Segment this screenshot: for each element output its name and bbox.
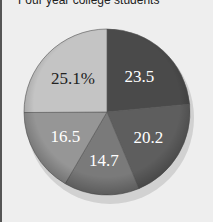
slice-label: 16.5 <box>50 127 80 146</box>
slice-label: 20.2 <box>133 128 163 147</box>
slice-label: 14.7 <box>89 151 119 170</box>
pie-chart: 23.520.214.716.525.1% <box>0 0 213 222</box>
slice-label: 25.1% <box>51 69 95 88</box>
slice-label: 23.5 <box>125 67 155 86</box>
